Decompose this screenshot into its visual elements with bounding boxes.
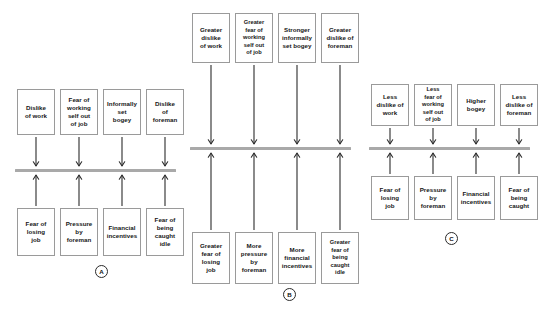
node-box: Financial incentives bbox=[457, 176, 495, 220]
node-box: Less dislike of foreman bbox=[500, 84, 538, 126]
node-box: Less dislike of work bbox=[371, 84, 409, 126]
panel-label-c: C bbox=[445, 232, 458, 245]
node-box: Higher bogey bbox=[457, 84, 495, 126]
equilibrium-bar bbox=[369, 147, 530, 150]
node-box: Fear of being caught bbox=[500, 176, 538, 220]
force-field-diagram: Dislike of workFear of working self out … bbox=[0, 0, 546, 312]
node-box: Pressure by foreman bbox=[414, 176, 452, 220]
node-box: Less fear of working self out of job bbox=[414, 84, 452, 126]
panel-c: Less dislike of workLess fear of working… bbox=[0, 0, 546, 312]
node-box: Fear of losing job bbox=[371, 176, 409, 220]
